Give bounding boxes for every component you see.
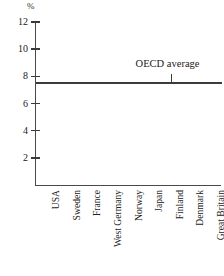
x-axis-label-usa: USA	[51, 190, 61, 209]
x-axis-label-norway: Norway	[134, 190, 144, 221]
x-axis-label-finland: Finland	[175, 190, 185, 219]
x-axis-category-labels: USASwedenFranceWest GermanyNorwayJapanFi…	[0, 0, 224, 276]
x-axis-label-great-britain: Great Britain	[216, 190, 224, 240]
x-axis-label-japan: Japan	[154, 190, 164, 212]
bar-chart: % 24681012 OECD average USASwedenFranceW…	[0, 0, 224, 276]
x-axis-label-denmark: Denmark	[195, 190, 205, 226]
x-axis-label-france: France	[92, 190, 102, 216]
x-axis-label-west-germany: West Germany	[113, 190, 123, 247]
x-axis-label-sweden: Sweden	[72, 190, 82, 220]
